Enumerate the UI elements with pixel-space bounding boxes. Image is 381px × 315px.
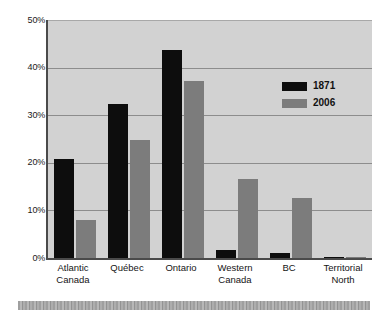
legend: 1871 2006 <box>280 77 338 112</box>
x-tick-label-4: BC <box>262 262 316 274</box>
x-tick-label-1: Québec <box>100 262 154 274</box>
y-tick-label-50: 50% <box>11 16 45 25</box>
bar-group <box>54 20 96 258</box>
y-tick-label-40: 40% <box>11 63 45 72</box>
y-tick-label-0: 0% <box>11 254 45 263</box>
bar-1871-4 <box>270 253 290 258</box>
bar-group <box>324 20 366 258</box>
y-tick-label-10: 10% <box>11 206 45 215</box>
x-tick-label-3: Western Canada <box>208 262 262 286</box>
y-tick-label-20: 20% <box>11 158 45 167</box>
x-tick-label-2: Ontario <box>154 262 208 274</box>
bar-1871-1 <box>108 104 128 258</box>
bar-group <box>108 20 150 258</box>
bar-2006-2 <box>184 81 204 258</box>
x-tick-label-5: Territorial North <box>316 262 370 286</box>
bar-2006-4 <box>292 198 312 258</box>
bar-1871-5 <box>324 257 344 258</box>
x-axis: Atlantic CanadaQuébecOntarioWestern Cana… <box>46 262 370 296</box>
bar-2006-3 <box>238 179 258 258</box>
bar-chart-figure: 50% 40% 30% 20% 10% 0% 1871 2006 Atlanti… <box>0 0 381 315</box>
legend-swatch-1871 <box>282 82 307 91</box>
legend-item-2006: 2006 <box>282 96 335 110</box>
footer-rule <box>18 301 370 310</box>
plot-inner <box>48 20 372 258</box>
bar-group <box>162 20 204 258</box>
legend-label-2006: 2006 <box>313 98 335 108</box>
legend-label-1871: 1871 <box>313 81 335 91</box>
y-tick-label-30: 30% <box>11 111 45 120</box>
bar-1871-2 <box>162 50 182 258</box>
bar-group <box>270 20 312 258</box>
bar-2006-5 <box>346 257 366 258</box>
bar-group <box>216 20 258 258</box>
bar-1871-3 <box>216 250 236 258</box>
x-tick-label-0: Atlantic Canada <box>46 262 100 286</box>
legend-swatch-2006 <box>282 99 307 108</box>
bar-1871-0 <box>54 159 74 258</box>
bar-2006-1 <box>130 140 150 258</box>
bar-2006-0 <box>76 220 96 258</box>
plot-area: 1871 2006 <box>46 20 372 260</box>
legend-item-1871: 1871 <box>282 79 335 93</box>
